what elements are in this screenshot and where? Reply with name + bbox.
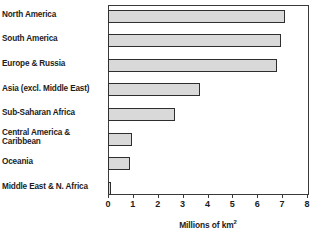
- category-label: Middle East & N. Africa: [2, 182, 98, 192]
- x-axis-tick-label: 6: [255, 199, 260, 209]
- x-axis-tick: [183, 194, 184, 198]
- bar-chart: North AmericaSouth AmericaEurope & Russi…: [0, 0, 318, 239]
- category-label: Central America &Caribbean: [2, 128, 98, 147]
- bar: [108, 157, 130, 170]
- bar: [108, 59, 277, 72]
- x-axis-tick-labels: 012345678: [108, 199, 308, 212]
- x-axis-tick-label: 5: [230, 199, 235, 209]
- x-axis-tick-label: 4: [205, 199, 210, 209]
- x-axis-tick: [158, 194, 159, 198]
- category-label-line: Middle East & N. Africa: [2, 182, 98, 192]
- bar: [108, 108, 175, 121]
- category-label: South America: [2, 34, 98, 44]
- bar: [108, 182, 111, 195]
- category-label: Europe & Russia: [2, 59, 98, 69]
- category-label: Oceania: [2, 157, 98, 167]
- bar: [108, 133, 132, 146]
- x-axis-tick-label: 2: [155, 199, 160, 209]
- bar: [108, 83, 200, 96]
- x-axis-tick-label: 0: [105, 199, 110, 209]
- category-label: North America: [2, 10, 98, 20]
- x-axis-tick-label: 8: [304, 199, 309, 209]
- category-label-line: Caribbean: [2, 137, 98, 147]
- category-label: Sub-Saharan Africa: [2, 108, 98, 118]
- x-axis-tick: [108, 194, 109, 198]
- plot-area: [108, 5, 309, 195]
- x-axis-tick-label: 7: [280, 199, 285, 209]
- category-label-line: South America: [2, 34, 98, 44]
- x-axis-tick: [208, 194, 209, 198]
- x-axis-tick-label: 1: [130, 199, 135, 209]
- x-axis-tick: [307, 194, 308, 198]
- category-label-line: Oceania: [2, 157, 98, 167]
- x-axis-tick-label: 3: [180, 199, 185, 209]
- bars-container: [109, 6, 308, 194]
- category-label-line: North America: [2, 10, 98, 20]
- bar: [108, 10, 285, 23]
- category-label-line: Central America &: [2, 128, 98, 138]
- x-axis-title-text: Millions of km: [179, 220, 233, 230]
- x-axis-title-superscript: 2: [234, 219, 237, 225]
- category-axis-labels: North AmericaSouth AmericaEurope & Russi…: [0, 0, 104, 194]
- x-axis-tick: [133, 194, 134, 198]
- category-label-line: Asia (excl. Middle East): [2, 84, 98, 94]
- category-label: Asia (excl. Middle East): [2, 84, 98, 94]
- x-axis-tick: [257, 194, 258, 198]
- x-axis-title: Millions of km2: [108, 219, 308, 230]
- x-axis-tick: [282, 194, 283, 198]
- category-label-line: Europe & Russia: [2, 59, 98, 69]
- x-axis-tick: [232, 194, 233, 198]
- category-label-line: Sub-Saharan Africa: [2, 108, 98, 118]
- bar: [108, 34, 281, 47]
